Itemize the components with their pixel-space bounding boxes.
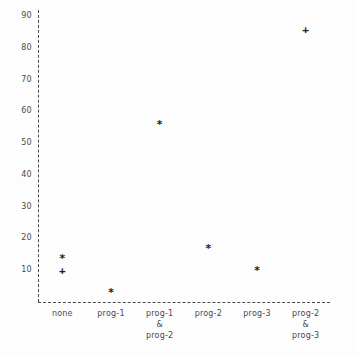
data-point-marker: * (205, 242, 212, 253)
data-point-marker: + (59, 265, 66, 276)
x-axis-tick-labels: noneprog-1prog-1 & prog-2prog-2prog-3pro… (38, 308, 330, 356)
scatter-chart: 908070605040302010 *****++ noneprog-1pro… (0, 0, 358, 356)
data-point-marker: * (59, 252, 66, 263)
y-tick-label: 80 (2, 44, 32, 52)
y-tick-label: 40 (2, 171, 32, 179)
y-tick-label: 10 (2, 266, 32, 274)
y-tick-label: 20 (2, 234, 32, 242)
data-point-marker: * (156, 119, 163, 130)
y-axis-tick-labels: 908070605040302010 (0, 0, 32, 356)
data-point-marker: * (254, 265, 261, 276)
plot-area: *****++ (38, 8, 330, 302)
x-axis-line (38, 302, 330, 303)
y-tick-label: 60 (2, 107, 32, 115)
y-tick-label: 30 (2, 203, 32, 211)
y-tick-label: 70 (2, 76, 32, 84)
y-tick-label: 50 (2, 139, 32, 147)
y-tick-label: 90 (2, 12, 32, 20)
data-point-marker: + (302, 23, 309, 34)
data-point-marker: * (108, 287, 115, 298)
x-tick-label: prog-2 & prog-3 (271, 308, 341, 341)
